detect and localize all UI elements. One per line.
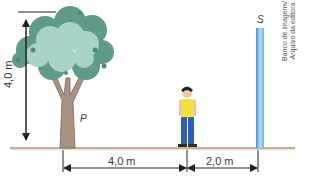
image-credit: Banco de imagens/ Arquivo da editora: [281, 0, 297, 72]
distance-person-mirror-label: 2,0 m: [206, 156, 234, 167]
credit-line-2: Arquivo da editora: [289, 0, 297, 72]
diagram-canvas: [0, 0, 314, 185]
mirror-label: S: [257, 15, 264, 25]
tree-label: P: [80, 114, 87, 124]
ground-line: [10, 147, 295, 150]
tree-icon: [12, 6, 114, 148]
credit-line-1: Banco de imagens/: [281, 0, 289, 72]
optics-diagram: 4,0 m P S 4,0 m 2,0 m Banco de imagens/ …: [0, 0, 314, 185]
distance-tree-person-label: 4,0 m: [108, 156, 136, 167]
person-icon: [178, 87, 197, 148]
mirror-icon: [256, 28, 264, 148]
tree-height-label: 4,0 m: [3, 60, 14, 88]
